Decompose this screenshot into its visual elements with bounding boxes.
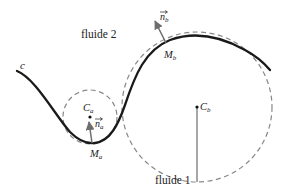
interface-curve: [17, 35, 270, 143]
interface-diagram: fluide 2 fluide 1 c Ca na Ma Cb nb Mb: [0, 0, 287, 193]
normal-b-label: nb: [160, 11, 169, 25]
fluid-1-label: fluide 1: [155, 174, 191, 186]
svg-text:nb: nb: [160, 11, 169, 24]
point-a-label: Ma: [89, 148, 103, 161]
center-b-label: Cb: [200, 101, 211, 114]
point-b-label: Mb: [163, 49, 177, 62]
normal-b-arrow: [155, 21, 166, 43]
svg-text:na: na: [95, 118, 104, 131]
center-b-point: [195, 105, 198, 108]
normal-a-label: na: [95, 118, 104, 132]
center-a-point: [88, 115, 91, 118]
center-a-label: Ca: [83, 102, 94, 115]
normal-a-arrow: [89, 122, 92, 143]
curve-label: c: [20, 59, 25, 71]
fluid-2-label: fluide 2: [81, 28, 117, 40]
